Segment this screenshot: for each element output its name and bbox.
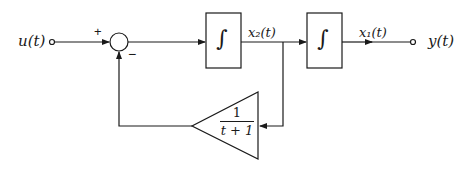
- input-terminal: [50, 40, 55, 45]
- gain-denominator: t + 1: [220, 121, 254, 137]
- output-label: y(t): [428, 34, 454, 49]
- integrator-2-symbol: ∫: [317, 28, 328, 50]
- input-label: u(t): [18, 34, 45, 49]
- block-diagram-canvas: [0, 0, 465, 169]
- feedback-branch-line: [260, 42, 283, 126]
- output-terminal: [411, 40, 416, 45]
- integrator-1-symbol: ∫: [216, 28, 227, 50]
- plus-sign: +: [94, 25, 102, 38]
- gain-numerator: 1: [220, 106, 254, 121]
- minus-sign: −: [128, 47, 136, 61]
- x2-label: x₂(t): [248, 26, 276, 39]
- x1-label: x₁(t): [359, 26, 387, 39]
- summing-junction: [110, 33, 128, 51]
- feedback-return-line: [119, 52, 192, 126]
- feedback-gain-fraction: 1 t + 1: [220, 106, 254, 137]
